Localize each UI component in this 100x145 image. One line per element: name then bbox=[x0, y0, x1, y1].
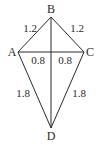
vertex-label-c: C bbox=[86, 45, 94, 59]
length-bc: 1.2 bbox=[70, 22, 84, 34]
vertex-label-a: A bbox=[8, 45, 17, 59]
vertex-label-b: B bbox=[47, 2, 55, 16]
length-ao: 0.8 bbox=[31, 54, 45, 66]
kite-diagram: B A C D 1.2 1.2 0.8 0.8 1.8 1.8 bbox=[0, 0, 100, 145]
length-ad: 1.8 bbox=[16, 87, 30, 99]
length-oc: 0.8 bbox=[58, 54, 72, 66]
length-cd: 1.8 bbox=[72, 87, 86, 99]
length-ab: 1.2 bbox=[23, 22, 37, 34]
vertex-label-d: D bbox=[47, 129, 56, 143]
